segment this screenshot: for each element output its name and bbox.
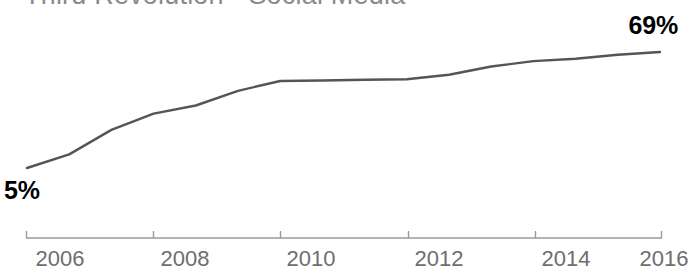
x-tick-label-2016: 2016 [640, 246, 689, 272]
x-tick-label-2006: 2006 [36, 246, 85, 272]
end-value-label: 69% [629, 11, 678, 40]
start-value-label: 5% [4, 176, 40, 205]
x-tick-label-2010: 2010 [287, 246, 336, 272]
chart-container: Third Revolution - Social Media 5% 69% 2… [0, 0, 700, 278]
x-tick-label-2014: 2014 [542, 246, 591, 272]
series-line-social-media [27, 52, 660, 168]
x-tick-label-2008: 2008 [161, 246, 210, 272]
chart-plot-area [0, 0, 700, 278]
x-tick-label-2012: 2012 [415, 246, 464, 272]
